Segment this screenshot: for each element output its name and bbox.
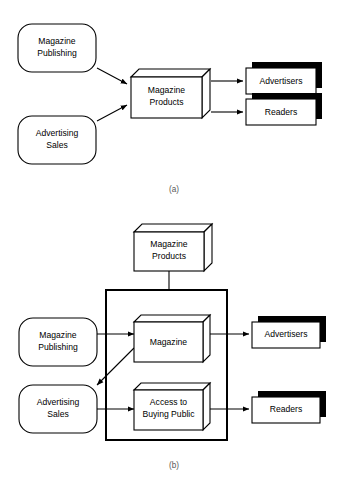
node-label: Advertisers — [260, 76, 303, 86]
node-magazine-publishing-a: Magazine Publishing — [18, 24, 96, 72]
node-magazine-publishing-b: Magazine Publishing — [19, 318, 97, 366]
figure-container: Magazine Publishing Advertising Sales Ma… — [0, 0, 348, 489]
node-label-line1: Magazine — [150, 239, 187, 249]
node-magazine-products-a: Magazine Products — [131, 69, 210, 118]
panel-a-caption: (a) — [169, 185, 179, 194]
panel-b-caption: (b) — [169, 461, 179, 470]
node-advertisers-a: Advertisers — [246, 62, 322, 94]
node-label-line2: Publishing — [38, 342, 78, 352]
node-label-line2: Products — [150, 97, 184, 107]
node-advertising-sales-b: Advertising Sales — [19, 385, 97, 433]
diagram-canvas: Magazine Publishing Advertising Sales Ma… — [0, 0, 348, 489]
cube-side-face — [204, 224, 212, 271]
cube-side-face — [202, 69, 210, 118]
node-label-line2: Sales — [46, 140, 68, 150]
node-advertising-sales-a: Advertising Sales — [18, 116, 96, 164]
cube-side-face — [203, 383, 210, 430]
node-label-line1: Access to — [150, 397, 187, 407]
panel-b: Magazine Products Magazine Publishing Ad… — [19, 224, 326, 470]
node-magazine-inner-b: Magazine — [134, 315, 210, 362]
cube-top-face — [131, 69, 210, 77]
node-magazine-products-b: Magazine Products — [134, 224, 212, 271]
node-label-line2: Buying Public — [142, 409, 195, 419]
cube-side-face — [203, 315, 210, 362]
node-label-line2: Products — [152, 251, 186, 261]
cube-top-face — [134, 315, 210, 322]
panel-a: Magazine Publishing Advertising Sales Ma… — [18, 24, 322, 194]
node-label: Readers — [265, 107, 297, 117]
node-advertisers-b: Advertisers — [252, 316, 326, 348]
node-label-line1: Magazine — [39, 330, 76, 340]
node-label-line2: Publishing — [37, 48, 77, 58]
node-label-line1: Magazine — [38, 36, 75, 46]
arrow-publishing-to-products-a — [97, 68, 127, 84]
node-access-buying-public-b: Access to Buying Public — [134, 383, 210, 430]
node-label: Readers — [270, 404, 302, 414]
node-label-line1: Advertising — [36, 128, 79, 138]
node-label-line2: Sales — [47, 409, 69, 419]
node-label-line1: Advertising — [37, 397, 80, 407]
node-readers-a: Readers — [246, 93, 322, 125]
arrow-magazine-to-sales-b — [97, 348, 134, 385]
node-label-line1: Magazine — [148, 85, 185, 95]
cube-top-face — [134, 224, 212, 232]
arrow-sales-to-products-a — [97, 105, 127, 121]
node-label-line1: Magazine — [150, 337, 187, 347]
cube-top-face — [134, 383, 210, 390]
node-label: Advertisers — [265, 329, 308, 339]
node-readers-b: Readers — [252, 391, 326, 423]
